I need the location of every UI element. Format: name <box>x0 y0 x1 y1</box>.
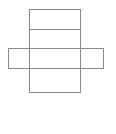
net-diagram-svg <box>0 0 116 134</box>
horizontal-band <box>9 49 104 69</box>
net-diagram-canvas <box>0 0 116 134</box>
vertical-rectangle <box>30 10 81 93</box>
